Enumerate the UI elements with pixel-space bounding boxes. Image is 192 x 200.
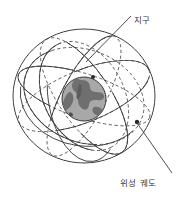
label-satellite-orbit: 위성 궤도 xyxy=(120,176,157,188)
earth-leader-line xyxy=(86,16,131,62)
orbit-leader-line xyxy=(137,123,172,173)
orbit-sphere-illustration xyxy=(0,0,192,200)
satellite-marker-secondary xyxy=(91,75,95,79)
earth-globe xyxy=(62,77,110,121)
label-earth: 지구 xyxy=(134,13,151,25)
satellite-orbit-figure: 지구 위성 궤도 xyxy=(0,0,192,200)
